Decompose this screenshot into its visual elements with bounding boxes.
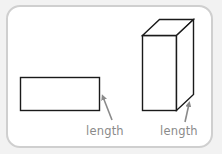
rectangle-length-arrow xyxy=(103,97,112,120)
prism-length-label: length xyxy=(160,124,198,138)
prism-shape xyxy=(143,20,194,111)
diagram-canvas: length length xyxy=(0,0,222,154)
rectangle-length-label: length xyxy=(86,124,124,138)
rectangle-shape xyxy=(21,78,100,111)
prism-length-arrow xyxy=(185,104,189,122)
